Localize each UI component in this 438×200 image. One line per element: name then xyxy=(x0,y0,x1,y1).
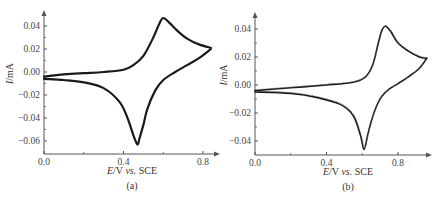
panel-label: (a) xyxy=(126,180,137,192)
x-axis-arrow-icon xyxy=(426,153,432,158)
x-tick-label: 0.0 xyxy=(249,158,261,168)
y-tick-label: 0.04 xyxy=(23,21,40,31)
y-axis-title: I/mA xyxy=(218,64,229,87)
y-tick-label: 0.02 xyxy=(23,44,40,54)
x-axis-arrow-icon xyxy=(214,152,220,157)
chart-figure: 0.040.020.00−0.02−0.04−0.060.00.40.8E/V … xyxy=(0,0,438,200)
cv-curve xyxy=(44,49,211,144)
y-tick-label: −0.02 xyxy=(18,90,40,100)
panel-label: (b) xyxy=(342,181,354,193)
y-tick-label: −0.06 xyxy=(18,136,40,146)
x-tick-label: 0.8 xyxy=(392,158,404,168)
y-tick-label: −0.04 xyxy=(18,113,40,123)
simulated-dotted-curve xyxy=(256,25,428,89)
y-tick-label: 0.00 xyxy=(23,67,40,77)
panel-b: 0.040.020.00−0.02−0.040.00.40.8E/V vs. S… xyxy=(218,12,432,193)
simulated-dotted-curve xyxy=(256,58,428,149)
y-tick-label: −0.02 xyxy=(229,108,251,118)
x-axis-title: E/V vs. SCE xyxy=(106,165,157,176)
y-axis-arrow-icon xyxy=(253,12,258,18)
x-tick-label: 0.0 xyxy=(38,157,50,167)
cv-curve xyxy=(44,18,211,77)
y-tick-label: 0.04 xyxy=(234,24,251,34)
y-tick-label: 0.02 xyxy=(234,52,251,62)
y-tick-label: 0.00 xyxy=(234,80,251,90)
x-axis-title: E/V vs. SCE xyxy=(322,166,373,177)
y-tick-label: −0.04 xyxy=(229,136,251,146)
cv-curve xyxy=(255,58,427,149)
y-axis-arrow-icon xyxy=(42,10,47,16)
x-tick-label: 0.8 xyxy=(197,157,209,167)
panel-a: 0.040.020.00−0.02−0.04−0.060.00.40.8E/V … xyxy=(4,10,220,192)
y-axis-title: I/mA xyxy=(4,62,15,85)
